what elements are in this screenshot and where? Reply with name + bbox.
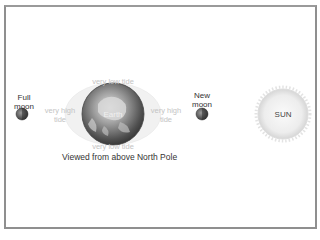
earth-label: Earth — [98, 110, 128, 119]
new-moon-label: New moon — [190, 91, 214, 109]
tide-label-bottom: very low tide — [83, 142, 143, 151]
tide-label-right-line2: tide — [146, 115, 186, 124]
full-moon-label-line2: moon — [12, 102, 36, 111]
tide-label-right: very high tide — [146, 106, 186, 124]
tide-label-left-line2: tide — [40, 115, 80, 124]
tide-label-right-line1: very high — [146, 106, 186, 115]
diagram-caption: Viewed from above North Pole — [62, 152, 177, 162]
tide-label-top: very low tide — [83, 77, 143, 86]
new-moon-icon — [196, 108, 208, 120]
full-moon-label: Full moon — [12, 93, 36, 111]
sun-label: SUN — [268, 110, 298, 119]
new-moon-label-line2: moon — [190, 100, 214, 109]
tide-label-left: very high tide — [40, 106, 80, 124]
full-moon-label-line1: Full — [12, 93, 36, 102]
new-moon-label-line1: New — [190, 91, 214, 100]
tide-label-left-line1: very high — [40, 106, 80, 115]
